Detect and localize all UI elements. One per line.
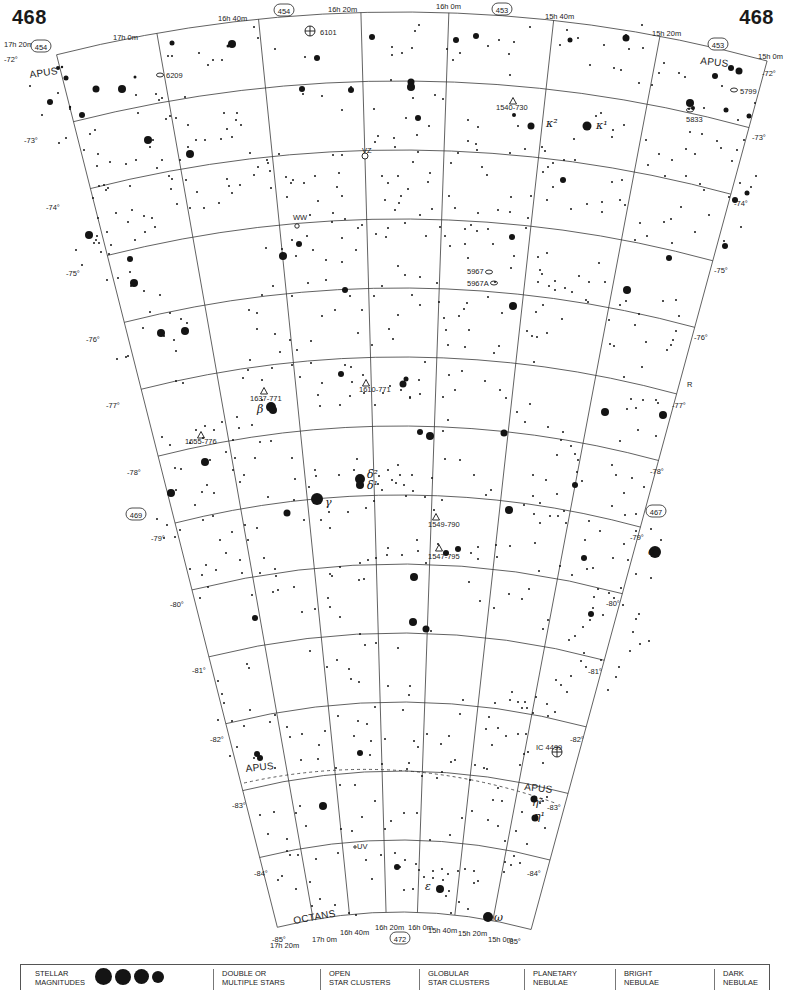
star xyxy=(397,647,399,649)
star xyxy=(736,68,743,75)
star xyxy=(310,340,312,342)
star xyxy=(405,495,407,497)
constellation-label: APUS xyxy=(29,65,59,80)
star xyxy=(231,136,233,138)
dec-label-right: -84° xyxy=(527,869,541,878)
adjacent-chart-ref-454[interactable]: 454 xyxy=(274,4,294,16)
star xyxy=(418,379,420,381)
star xyxy=(524,701,526,703)
star xyxy=(309,881,311,883)
star xyxy=(232,439,234,441)
star xyxy=(532,474,534,476)
adjacent-chart-ref-467[interactable]: 467 xyxy=(646,505,666,517)
star xyxy=(535,696,537,698)
planetary-1547-795: 1547-795 xyxy=(428,545,460,562)
object-label: 5833 xyxy=(686,115,703,124)
star xyxy=(431,208,433,210)
star xyxy=(449,245,451,247)
star xyxy=(530,195,532,197)
star xyxy=(528,123,535,130)
legend-stellar-magnitudes: STELLAR MAGNITUDES xyxy=(35,969,213,990)
star xyxy=(468,581,470,583)
star xyxy=(329,527,331,529)
star xyxy=(299,86,305,92)
star xyxy=(524,148,526,150)
star xyxy=(618,666,620,668)
star xyxy=(723,240,725,242)
star xyxy=(452,59,454,61)
star xyxy=(206,484,208,486)
star xyxy=(476,230,478,232)
star xyxy=(357,750,363,756)
star xyxy=(106,279,108,281)
star xyxy=(608,592,610,594)
star xyxy=(423,876,425,878)
star xyxy=(602,614,604,616)
adjacent-chart-ref-454[interactable]: 454 xyxy=(31,40,51,52)
star xyxy=(187,146,189,148)
star xyxy=(509,211,511,213)
star xyxy=(625,34,627,36)
star xyxy=(641,24,643,26)
svg-text:454: 454 xyxy=(35,43,48,52)
star xyxy=(647,164,649,166)
star xyxy=(85,231,93,239)
star xyxy=(301,611,303,613)
star xyxy=(568,38,573,43)
star xyxy=(473,474,475,476)
adjacent-chart-ref-469[interactable]: 469 xyxy=(126,508,146,520)
star xyxy=(508,53,510,55)
star xyxy=(418,24,420,26)
star xyxy=(728,196,730,198)
star xyxy=(361,309,363,311)
star xyxy=(81,264,83,266)
star xyxy=(408,694,410,696)
star xyxy=(408,762,410,764)
star xyxy=(545,479,547,481)
star xyxy=(334,904,336,906)
star xyxy=(371,344,373,346)
star xyxy=(498,39,500,41)
adjacent-chart-ref-453[interactable]: 453 xyxy=(708,38,728,50)
star xyxy=(416,539,418,541)
star xyxy=(265,247,267,249)
star xyxy=(217,719,219,721)
star xyxy=(314,55,320,61)
star xyxy=(400,381,407,388)
star xyxy=(623,124,625,126)
star-chart: 610162095799583359675967AIC 44991540-730… xyxy=(0,0,792,960)
star xyxy=(306,235,308,237)
star xyxy=(270,187,272,189)
star xyxy=(344,364,346,366)
star xyxy=(552,186,554,188)
star xyxy=(595,115,597,117)
star xyxy=(308,486,310,488)
star xyxy=(473,882,475,884)
star xyxy=(477,880,479,882)
star xyxy=(534,542,536,544)
star xyxy=(479,600,481,602)
star xyxy=(100,251,102,253)
adjacent-chart-ref-472[interactable]: 472 xyxy=(390,932,410,944)
star xyxy=(291,457,293,459)
star xyxy=(401,554,403,556)
star xyxy=(149,311,151,313)
star xyxy=(105,189,107,191)
star xyxy=(244,524,246,526)
star xyxy=(642,47,644,49)
star xyxy=(311,493,323,505)
star xyxy=(418,869,420,871)
star xyxy=(519,764,521,766)
adjacent-chart-ref-453[interactable]: 453 xyxy=(492,3,512,15)
star xyxy=(432,870,434,872)
star xyxy=(574,159,576,161)
star xyxy=(650,577,652,579)
ra-line-17h0m xyxy=(157,33,313,919)
star xyxy=(546,703,548,705)
star xyxy=(467,140,469,142)
star xyxy=(351,830,353,832)
star xyxy=(554,289,556,291)
star-designation: WW xyxy=(293,213,308,222)
star xyxy=(236,416,238,418)
star-designation: ω xyxy=(494,911,503,924)
